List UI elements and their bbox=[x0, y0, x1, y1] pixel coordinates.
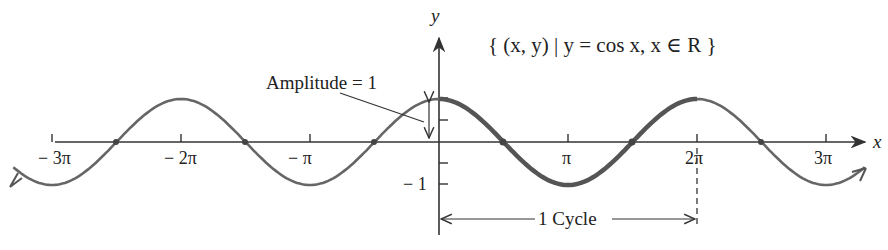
cycle-label: 1 Cycle bbox=[538, 208, 597, 229]
amplitude-label: Amplitude = 1 bbox=[266, 72, 377, 93]
tick-label-neg-1: − 1 bbox=[403, 174, 427, 194]
tick-label-neg-3pi: − 3π bbox=[38, 148, 71, 168]
tick-label-neg-2pi: − 2π bbox=[164, 148, 197, 168]
left-curve-arrow-icon bbox=[10, 173, 22, 187]
cosine-graph: { (x, y) | y = cos x, x ∈ R } y x Amplit… bbox=[0, 0, 888, 250]
x-axis-label: x bbox=[872, 131, 882, 152]
y-axis-label: y bbox=[429, 5, 440, 26]
tick-label-pi: π bbox=[562, 148, 571, 168]
tick-label-3pi: 3π bbox=[814, 148, 832, 168]
tick-label-neg-pi: − π bbox=[288, 148, 312, 168]
set-notation-title: { (x, y) | y = cos x, x ∈ R } bbox=[488, 33, 717, 57]
tick-label-2pi: 2π bbox=[685, 148, 703, 168]
y-ticks bbox=[439, 98, 448, 184]
